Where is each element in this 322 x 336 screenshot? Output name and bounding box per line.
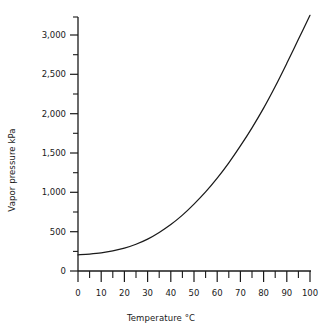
x-tick-label: 30 (142, 288, 153, 298)
y-tick-label: 2,500 (42, 69, 66, 79)
x-tick-label: 60 (212, 288, 223, 298)
chart-plot-area: 0 500 1,000 1,500 2,000 2,500 3,000 (0, 0, 322, 336)
vapor-pressure-chart-figure: 0 500 1,000 1,500 2,000 2,500 3,000 (0, 0, 322, 336)
y-axis-title: Vapor pressure kPa (7, 128, 17, 211)
x-axis-tick-labels: 0 10 20 30 40 50 60 70 80 90 100 (75, 288, 318, 298)
x-tick-label: 40 (165, 288, 176, 298)
y-axis-tick-labels: 0 500 1,000 1,500 2,000 2,500 3,000 (42, 30, 66, 276)
y-axis-title-wrapper: Vapor pressure kPa (4, 100, 20, 240)
y-tick-label: 1,000 (42, 187, 66, 197)
x-tick-label: 50 (189, 288, 200, 298)
y-axis-major-ticks (70, 35, 78, 271)
y-axis-minor-ticks (73, 17, 78, 251)
y-tick-label: 3,000 (42, 30, 66, 40)
y-tick-label: 1,500 (42, 148, 66, 158)
x-tick-label: 20 (119, 288, 130, 298)
vapor-pressure-curve (78, 15, 310, 255)
x-tick-label: 100 (302, 288, 318, 298)
y-tick-label: 0 (61, 266, 66, 276)
x-tick-label: 70 (235, 288, 246, 298)
x-axis-title: Temperature °C (0, 313, 322, 323)
y-tick-label: 500 (50, 227, 66, 237)
x-tick-label: 0 (75, 288, 80, 298)
x-tick-label: 90 (281, 288, 292, 298)
x-tick-label: 80 (258, 288, 269, 298)
x-tick-label: 10 (96, 288, 107, 298)
y-tick-label: 2,000 (42, 109, 66, 119)
